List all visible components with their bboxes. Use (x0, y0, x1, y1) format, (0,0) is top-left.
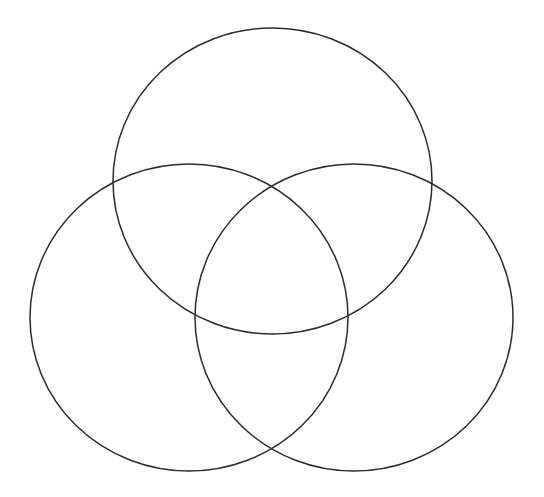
background (0, 0, 544, 497)
venn-diagram (0, 0, 544, 497)
